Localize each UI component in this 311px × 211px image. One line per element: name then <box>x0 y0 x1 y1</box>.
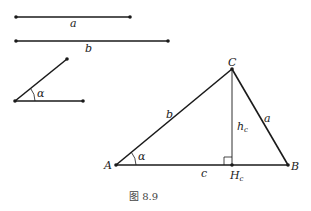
triangle-abc: A B C b a c hc Hc α <box>103 56 299 183</box>
side-b-label: b <box>166 108 173 121</box>
height-label: hc <box>237 120 248 134</box>
vertex-b-label: B <box>290 160 299 173</box>
vertex-a-label: A <box>103 159 112 172</box>
figure-caption: 图 8.9 <box>129 191 158 202</box>
segment-a: a <box>14 15 132 30</box>
angle-alpha: α <box>13 57 85 103</box>
geometry-figure: a b α A B C b a c hc Hc α 图 <box>0 0 311 211</box>
segment-b-label: b <box>85 42 92 55</box>
vertex-c-label: C <box>228 56 237 69</box>
segment-a-label: a <box>70 17 77 30</box>
side-a-label: a <box>264 112 271 125</box>
foot-label: Hc <box>229 169 244 183</box>
side-c-label: c <box>201 167 207 180</box>
angle-alpha-triangle-label: α <box>138 150 146 163</box>
angle-alpha-label: α <box>37 87 45 100</box>
segment-b: b <box>14 39 170 55</box>
